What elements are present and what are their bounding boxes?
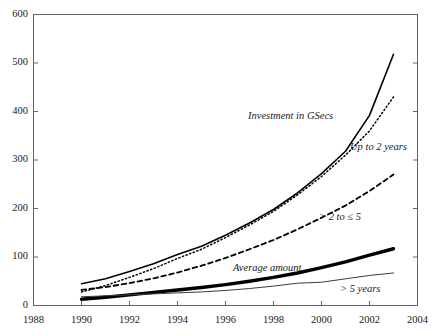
series-annotation-3: Average amount — [233, 262, 302, 273]
x-tick-label: 1988 — [11, 314, 57, 325]
y-tick-label: 100 — [2, 250, 28, 261]
y-tick-label: 200 — [2, 202, 28, 213]
series-annotation-2: > 2 to ≤ 5 — [319, 211, 361, 222]
series-annotation-0: Investment in GSecs — [248, 110, 333, 121]
x-tick-label: 1996 — [203, 314, 249, 325]
series-annotation-1: Up to 2 years — [350, 141, 407, 152]
chart-container: 6005004003002001000 19881990199219941996… — [0, 0, 434, 336]
x-tick-label: 1998 — [251, 314, 297, 325]
y-tick-label: 500 — [2, 56, 28, 67]
plot-frame — [34, 15, 418, 306]
x-tick-label: 1992 — [107, 314, 153, 325]
x-tick-label: 2000 — [299, 314, 345, 325]
x-tick-label: 1990 — [59, 314, 105, 325]
axis-ticks — [34, 63, 418, 306]
x-tick-label: 2002 — [347, 314, 393, 325]
series-annotation-4: > 5 years — [340, 283, 380, 294]
x-tick-label: 2004 — [395, 314, 434, 325]
y-tick-label: 300 — [2, 153, 28, 164]
y-tick-label: 400 — [2, 105, 28, 116]
y-tick-label: 0 — [2, 299, 28, 310]
y-tick-label: 600 — [2, 8, 28, 19]
series-line-0 — [82, 54, 394, 283]
x-tick-label: 1994 — [155, 314, 201, 325]
